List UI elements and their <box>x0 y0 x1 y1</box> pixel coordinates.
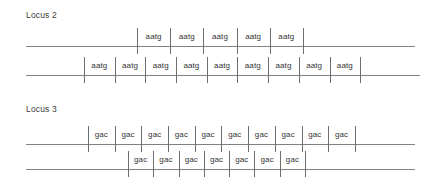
repeat-tick-icon <box>248 126 249 152</box>
locus3-allele-1-row: gac gac gac gac gac gac <box>0 126 442 152</box>
repeat-label: gac <box>261 155 274 165</box>
repeat-unit: gac <box>204 151 229 177</box>
repeat-unit: gac <box>153 151 178 177</box>
repeat-label: aatg <box>122 61 138 71</box>
repeat-tick-icon <box>270 28 271 54</box>
repeat-tick-icon <box>128 151 129 177</box>
repeat-label: aatg <box>245 61 261 71</box>
repeat-label: gac <box>148 130 161 140</box>
repeat-tick-icon <box>145 57 146 83</box>
repeat-tick-icon <box>355 126 356 152</box>
repeat-label: gac <box>134 155 147 165</box>
repeat-tick-icon <box>221 126 222 152</box>
repeat-unit: aatg <box>203 28 236 54</box>
str-locus-diagram: Locus 2 aatg aatg aatg aatg aatg <box>0 0 442 180</box>
repeat-unit: gac <box>141 126 168 152</box>
repeat-unit: gac <box>195 126 222 152</box>
repeat-unit: gac <box>88 126 115 152</box>
repeat-unit: gac <box>128 151 153 177</box>
repeat-tick-icon <box>303 28 304 54</box>
repeat-label: aatg <box>245 32 261 42</box>
repeat-unit: gac <box>115 126 142 152</box>
repeat-unit: gac <box>221 126 248 152</box>
repeat-label: gac <box>308 130 321 140</box>
repeat-tick-icon <box>305 151 306 177</box>
locus2-allele-2-repeats: aatg aatg aatg aatg aatg aatg <box>84 57 360 83</box>
repeat-unit: aatg <box>237 28 270 54</box>
repeat-label: gac <box>255 130 268 140</box>
repeat-tick-icon <box>153 151 154 177</box>
repeat-tick-icon <box>302 126 303 152</box>
locus-label-2: Locus 2 <box>26 10 57 20</box>
repeat-unit: aatg <box>145 57 176 83</box>
repeat-tick-icon <box>115 126 116 152</box>
repeat-unit: gac <box>229 151 254 177</box>
repeat-unit: gac <box>248 126 275 152</box>
repeat-tick-icon <box>179 151 180 177</box>
repeat-unit: gac <box>280 151 305 177</box>
repeat-tick-icon <box>237 28 238 54</box>
repeat-label: gac <box>159 155 172 165</box>
repeat-label: gac <box>185 155 198 165</box>
repeat-unit: aatg <box>237 57 268 83</box>
repeat-label: gac <box>228 130 241 140</box>
repeat-tick-icon <box>237 57 238 83</box>
locus3-allele-1-repeats: gac gac gac gac gac gac <box>88 126 355 152</box>
repeat-tick-icon <box>115 57 116 83</box>
repeat-tick-icon <box>137 28 138 54</box>
repeat-label: gac <box>121 130 134 140</box>
repeat-label: aatg <box>212 32 228 42</box>
repeat-unit: gac <box>275 126 302 152</box>
repeat-tick-icon <box>170 28 171 54</box>
repeat-tick-icon <box>268 57 269 83</box>
repeat-unit: aatg <box>115 57 146 83</box>
repeat-tick-icon <box>176 57 177 83</box>
locus3-allele-2-row: gac gac gac gac gac gac <box>0 151 442 177</box>
repeat-label: aatg <box>337 61 353 71</box>
repeat-tick-icon <box>330 57 331 83</box>
repeat-tick-icon <box>360 57 361 83</box>
repeat-label: aatg <box>179 32 195 42</box>
repeat-label: gac <box>235 155 248 165</box>
repeat-unit: aatg <box>207 57 238 83</box>
repeat-label: gac <box>335 130 348 140</box>
repeat-unit: aatg <box>176 57 207 83</box>
locus2-allele-1-row: aatg aatg aatg aatg aatg <box>0 28 442 54</box>
repeat-label: aatg <box>91 61 107 71</box>
locus2-allele-1-repeats: aatg aatg aatg aatg aatg <box>137 28 303 54</box>
repeat-unit: aatg <box>268 57 299 83</box>
repeat-unit: aatg <box>137 28 170 54</box>
repeat-label: aatg <box>275 61 291 71</box>
locus2-allele-2-row: aatg aatg aatg aatg aatg aatg <box>0 57 442 83</box>
repeat-label: gac <box>201 130 214 140</box>
repeat-tick-icon <box>328 126 329 152</box>
repeat-label: aatg <box>278 32 294 42</box>
repeat-unit: aatg <box>84 57 115 83</box>
repeat-tick-icon <box>299 57 300 83</box>
repeat-tick-icon <box>88 126 89 152</box>
repeat-tick-icon <box>275 126 276 152</box>
repeat-unit: gac <box>179 151 204 177</box>
repeat-tick-icon <box>84 57 85 83</box>
repeat-label: gac <box>210 155 223 165</box>
repeat-tick-icon <box>207 57 208 83</box>
repeat-tick-icon <box>280 151 281 177</box>
repeat-tick-icon <box>254 151 255 177</box>
repeat-unit: aatg <box>330 57 361 83</box>
repeat-unit: aatg <box>170 28 203 54</box>
repeat-tick-icon <box>168 126 169 152</box>
repeat-tick-icon <box>195 126 196 152</box>
repeat-unit: gac <box>254 151 279 177</box>
repeat-unit: aatg <box>299 57 330 83</box>
repeat-label: gac <box>282 130 295 140</box>
locus3-allele-2-repeats: gac gac gac gac gac gac <box>128 151 305 177</box>
locus-label-3: Locus 3 <box>26 104 57 114</box>
repeat-unit: gac <box>302 126 329 152</box>
repeat-label: aatg <box>214 61 230 71</box>
repeat-label: aatg <box>306 61 322 71</box>
repeat-unit: gac <box>328 126 355 152</box>
repeat-label: gac <box>95 130 108 140</box>
repeat-label: aatg <box>146 32 162 42</box>
repeat-label: aatg <box>153 61 169 71</box>
repeat-tick-icon <box>204 151 205 177</box>
